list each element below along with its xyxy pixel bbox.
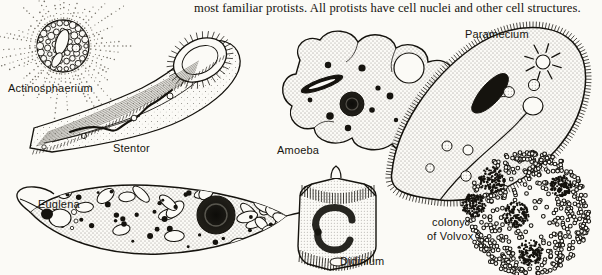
protist-illustration: Actinosphaerium Stentor Euglena Amoeba D… bbox=[0, 0, 602, 275]
label-amoeba: Amoeba bbox=[277, 144, 320, 156]
paramecium-contractile-vacuole-posterior bbox=[463, 145, 473, 155]
label-volvox-line-1: colony bbox=[432, 216, 465, 228]
amoeba-nucleus bbox=[340, 92, 364, 116]
label-paramecium: Paramecium bbox=[465, 28, 529, 40]
label-actinosphaerium: Actinosphaerium bbox=[8, 82, 93, 94]
paramecium-gullet bbox=[523, 97, 543, 115]
label-didinium: Didinium bbox=[340, 255, 384, 267]
volvox-daughter-colony-5 bbox=[549, 174, 572, 197]
label-stentor: Stentor bbox=[113, 142, 150, 154]
volvox-daughter-colony-4 bbox=[517, 239, 543, 266]
euglena-vacuole-2 bbox=[74, 219, 78, 223]
stentor-vacuole-2 bbox=[131, 115, 137, 121]
euglena-nucleus bbox=[197, 196, 235, 234]
volvox-daughter-colony-3 bbox=[502, 201, 530, 228]
actinosphaerium-vacuole-large bbox=[72, 44, 80, 52]
didinium-proboscis bbox=[331, 166, 341, 178]
label-volvox-line-2: of Volvox bbox=[427, 230, 474, 242]
label-euglena: Euglena bbox=[38, 198, 80, 210]
amoeba-contractile-vacuole bbox=[394, 53, 424, 83]
organism-euglena bbox=[17, 183, 320, 255]
euglena-vacuole-1 bbox=[71, 209, 76, 214]
figure-page: most familiar protists. All protists hav… bbox=[0, 0, 602, 275]
euglena-vacuole-3 bbox=[70, 226, 73, 229]
